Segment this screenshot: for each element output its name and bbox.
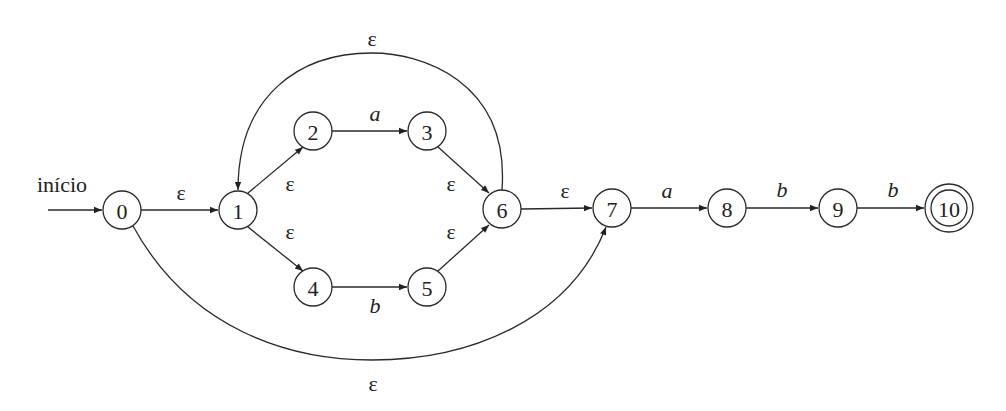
edge-label-0-7: ε	[368, 371, 377, 396]
state-2: 2	[294, 112, 332, 150]
state-label: 5	[422, 276, 433, 301]
state-label: 9	[833, 197, 844, 222]
edge-label-7-8: a	[662, 178, 673, 203]
state-9: 9	[819, 189, 857, 227]
edge-label-8-9: b	[777, 177, 788, 202]
edge-label-4-5: b	[370, 293, 381, 318]
state-label: 10	[938, 197, 960, 222]
edge-label-5-6: ε	[446, 219, 455, 244]
state-7: 7	[593, 189, 631, 227]
state-5: 5	[408, 268, 446, 306]
edge-label-2-3: a	[370, 101, 381, 126]
state-10-accepting: 10	[925, 184, 973, 232]
edge-6-7	[521, 208, 592, 209]
edge-1-4	[248, 227, 303, 271]
state-4: 4	[294, 268, 332, 306]
state-label: 0	[117, 199, 128, 224]
state-label: 2	[308, 120, 319, 145]
state-label: 1	[233, 199, 244, 224]
edge-label-1-4: ε	[285, 219, 294, 244]
nfa-diagram: início ε ε ε a b ε ε ε ε ε a b b 0 1 2 3…	[0, 0, 1006, 411]
edge-label-0-1: ε	[176, 180, 185, 205]
state-3: 3	[408, 112, 446, 150]
state-label: 4	[308, 276, 319, 301]
edge-1-2	[248, 147, 303, 193]
state-label: 3	[422, 120, 433, 145]
state-label: 7	[607, 197, 618, 222]
edge-label-1-2: ε	[285, 171, 294, 196]
state-6: 6	[483, 190, 521, 228]
edge-label-6-1: ε	[367, 26, 376, 51]
state-1: 1	[219, 191, 257, 229]
state-8: 8	[708, 189, 746, 227]
state-label: 6	[497, 198, 508, 223]
edge-label-9-10: b	[888, 177, 899, 202]
state-0: 0	[103, 191, 141, 229]
edge-label-6-7: ε	[560, 178, 569, 203]
edge-label-3-6: ε	[446, 171, 455, 196]
start-label: início	[37, 172, 87, 197]
state-label: 8	[722, 197, 733, 222]
